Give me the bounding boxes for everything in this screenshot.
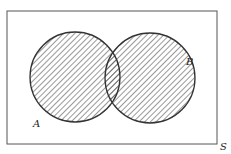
universe-label: S xyxy=(220,141,227,152)
set-a-label: A xyxy=(32,118,40,129)
set-b-label: B xyxy=(185,56,193,67)
venn-diagram: A B S xyxy=(0,0,231,154)
